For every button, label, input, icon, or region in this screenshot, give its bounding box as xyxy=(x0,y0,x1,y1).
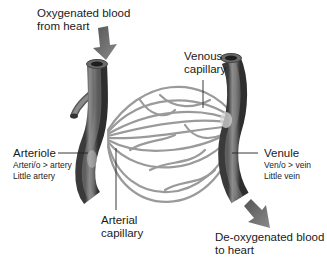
venule-etymology: Ven/o > vein xyxy=(264,160,311,171)
venule-name: Venule xyxy=(264,147,311,160)
venule-meaning: Little vein xyxy=(264,171,311,182)
deoxygenated-blood-label: De-oxygenated blood to heart xyxy=(215,231,324,257)
capillary-diagram xyxy=(0,0,327,260)
venule-label: Venule Ven/o > vein Little vein xyxy=(264,147,311,182)
arteriole-label: Arteriole Arteri/o > artery Little arter… xyxy=(13,147,72,182)
arteriole-etymology: Arteri/o > artery xyxy=(13,160,72,171)
arteriole-meaning: Little artery xyxy=(13,171,72,182)
arteriole-name: Arteriole xyxy=(13,147,72,160)
arterial-capillary-label: Arterial capillary xyxy=(101,214,143,240)
oxygenated-blood-label: Oxygenated blood from heart xyxy=(37,7,130,33)
arteriole-vessel xyxy=(70,60,108,199)
venous-capillary-label: Venous capillary xyxy=(184,50,226,76)
capillary-network xyxy=(108,87,236,202)
deoxygenated-flow-arrow-icon xyxy=(244,199,270,228)
